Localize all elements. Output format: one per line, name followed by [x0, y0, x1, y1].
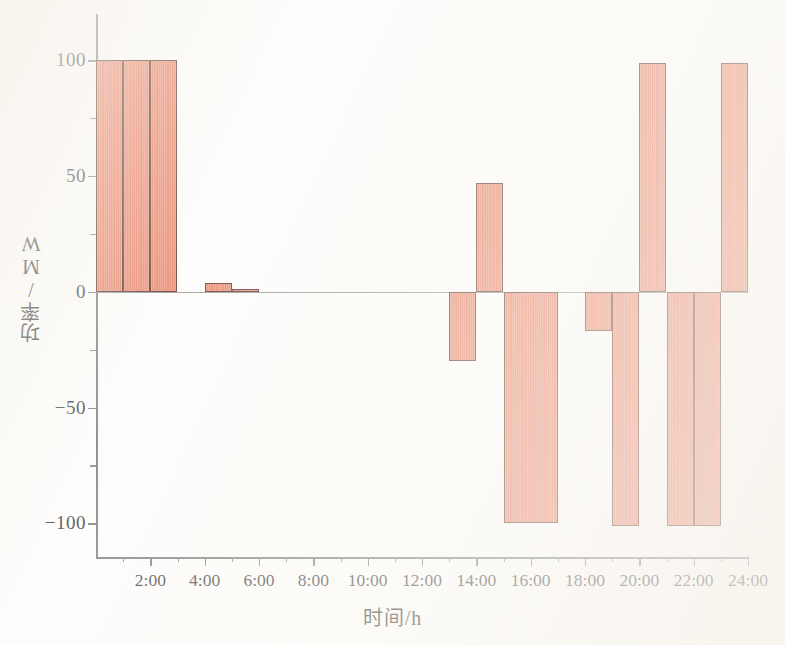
y-tick-label: −100: [45, 512, 86, 534]
bar: [123, 60, 150, 291]
bar: [150, 60, 177, 291]
y-tick-label: 50: [66, 165, 86, 187]
x-tick-minor: [123, 557, 124, 562]
x-tick-label: 20:00: [619, 570, 659, 591]
bar: [694, 292, 721, 526]
x-tick-label: 16:00: [511, 570, 551, 591]
x-tick-label: 6:00: [243, 570, 274, 591]
x-tick-minor: [721, 557, 722, 562]
x-tick-minor: [449, 557, 450, 562]
x-tick: [422, 557, 423, 566]
bar: [667, 292, 694, 526]
bar: [504, 292, 558, 523]
y-tick: [88, 523, 96, 524]
zero-baseline: [96, 292, 748, 293]
x-tick: [585, 557, 586, 566]
x-tick-minor: [504, 557, 505, 562]
y-axis-title: 功率/MW: [16, 232, 50, 343]
x-tick-label: 12:00: [402, 570, 442, 591]
x-tick-label: 8:00: [298, 570, 329, 591]
x-tick-label: 4:00: [189, 570, 220, 591]
bar: [721, 63, 748, 292]
x-tick: [259, 557, 260, 566]
x-tick-minor: [667, 557, 668, 562]
x-tick-minor: [612, 557, 613, 562]
x-tick: [694, 557, 695, 566]
bar: [639, 63, 666, 292]
y-tick: [88, 60, 96, 61]
plot-area: 100500−50−100 2:004:006:008:0010:0012:00…: [96, 14, 748, 558]
x-tick: [205, 557, 206, 566]
x-tick-minor: [558, 557, 559, 562]
x-tick-label: 22:00: [674, 570, 714, 591]
x-tick: [150, 557, 151, 566]
x-tick-label: 24:00: [728, 570, 768, 591]
bar: [232, 289, 259, 291]
bar: [449, 292, 476, 361]
x-tick: [748, 557, 749, 566]
x-tick-minor: [341, 557, 342, 562]
y-tick-label: 100: [56, 49, 86, 71]
bar: [96, 60, 123, 291]
x-tick-label: 2:00: [135, 570, 166, 591]
y-tick-minor: [90, 465, 96, 466]
bar: [612, 292, 639, 526]
chart-page: 100500−50−100 2:004:006:008:0010:0012:00…: [0, 0, 785, 645]
bar: [205, 283, 232, 292]
x-tick: [639, 557, 640, 566]
bar: [476, 183, 503, 292]
x-tick-minor: [286, 557, 287, 562]
y-tick-minor: [90, 350, 96, 351]
y-tick: [88, 176, 96, 177]
x-tick-label: 14:00: [456, 570, 496, 591]
bar: [585, 292, 612, 331]
x-tick-label: 10:00: [348, 570, 388, 591]
x-tick: [313, 557, 314, 566]
x-tick: [531, 557, 532, 566]
y-tick-label: 0: [76, 281, 86, 303]
x-tick-minor: [178, 557, 179, 562]
x-tick-label: 18:00: [565, 570, 605, 591]
y-tick-label: −50: [55, 397, 86, 419]
x-tick-minor: [232, 557, 233, 562]
x-tick: [368, 557, 369, 566]
x-axis-title: 时间/h: [0, 602, 785, 631]
x-tick-minor: [395, 557, 396, 562]
x-tick: [476, 557, 477, 566]
y-tick: [88, 408, 96, 409]
y-tick: [88, 292, 96, 293]
